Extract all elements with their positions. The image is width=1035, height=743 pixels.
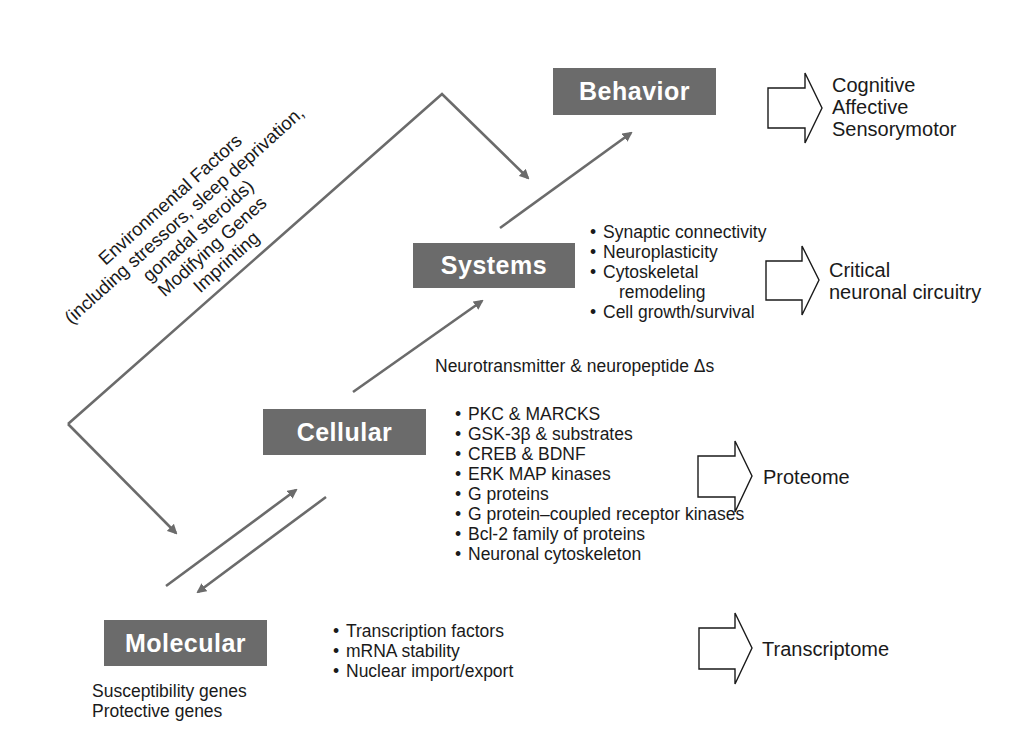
cellular-item: ERK MAP kinases <box>455 464 744 484</box>
molecular-genes: Susceptibility genes Protective genes <box>92 681 247 721</box>
systems-outcome: Critical <box>829 259 981 281</box>
systems-item: Cell growth/survival <box>590 302 766 322</box>
molecular-outcome-label: Transcriptome <box>762 638 889 660</box>
behavior-level-label: Behavior <box>579 77 690 106</box>
molecular-mechanisms: Transcription factors mRNA stability Nuc… <box>333 621 513 681</box>
cellular-level-label: Cellular <box>297 418 393 447</box>
cellular-item: G protein–coupled receptor kinases <box>455 504 744 524</box>
systems-item: Cytoskeletalremodeling <box>590 262 766 302</box>
molecular-item: Transcription factors <box>333 621 513 641</box>
molecular-level-label: Molecular <box>125 629 246 658</box>
cellular-item: Neuronal cytoskeleton <box>455 544 744 564</box>
systems-mechanisms: Synaptic connectivity Neuroplasticity Cy… <box>590 222 766 322</box>
behavior-outcome: Cognitive <box>832 74 957 96</box>
cellular-item: GSK-3β & substrates <box>455 424 744 444</box>
molecular-level-box: Molecular <box>104 620 267 666</box>
cellular-to-molecular-arrow <box>198 497 326 592</box>
cellular-item: G proteins <box>455 484 744 504</box>
molecular-item: mRNA stability <box>333 641 513 661</box>
cellular-item: CREB & BDNF <box>455 444 744 464</box>
systems-to-behavior-arrow <box>500 133 631 228</box>
neurotransmitter-note: Neurotransmitter & neuropeptide Δs <box>435 356 714 376</box>
systems-outcome-block-arrow <box>766 246 819 315</box>
cellular-outcome-label: Proteome <box>763 466 850 488</box>
cellular-outcome: Proteome <box>763 466 850 488</box>
environment-to-molecular-arrow <box>68 424 176 533</box>
behavior-outcomes: Cognitive Affective Sensorymotor <box>832 74 957 140</box>
systems-item: Synaptic connectivity <box>590 222 766 242</box>
molecular-outcome: Transcriptome <box>762 638 889 660</box>
systems-outcomes: Critical neuronal circuitry <box>829 259 981 303</box>
systems-level-label: Systems <box>441 251 547 280</box>
behavior-outcome-block-arrow <box>768 73 822 143</box>
molecular-to-cellular-arrow <box>166 490 296 586</box>
behavior-outcome: Affective <box>832 96 957 118</box>
gene-label: Protective genes <box>92 701 247 721</box>
systems-outcome: neuronal circuitry <box>829 281 981 303</box>
cellular-item: PKC & MARCKS <box>455 404 744 424</box>
cellular-level-box: Cellular <box>263 409 426 455</box>
behavior-outcome: Sensorymotor <box>832 118 957 140</box>
behavior-level-box: Behavior <box>553 68 716 115</box>
molecular-outcome-block-arrow <box>699 613 752 684</box>
cellular-item: Bcl-2 family of proteins <box>455 524 744 544</box>
systems-level-box: Systems <box>413 243 575 288</box>
cellular-mechanisms: PKC & MARCKS GSK-3β & substrates CREB & … <box>455 404 744 564</box>
molecular-item: Nuclear import/export <box>333 661 513 681</box>
systems-item: Neuroplasticity <box>590 242 766 262</box>
gene-label: Susceptibility genes <box>92 681 247 701</box>
cellular-to-systems-arrow <box>353 301 482 392</box>
